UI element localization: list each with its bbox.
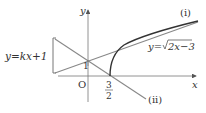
label-layer: y x O 1 3 2 y=kx+1 (i) (ii) y= 2x−3 <box>0 0 206 113</box>
origin-label: O <box>78 79 86 90</box>
x-point-numerator: 3 <box>106 80 112 90</box>
line-family-label: y=kx+1 <box>4 50 48 62</box>
y-axis-label: y <box>79 5 86 16</box>
line-i-label: (i) <box>180 7 191 18</box>
y-intercept-label: 1 <box>83 61 89 71</box>
curve-label-prefix: y= <box>147 41 162 52</box>
x-axis-label: x <box>192 79 198 90</box>
curve-label-radicand: 2x−3 <box>167 41 195 52</box>
x-point-denominator: 2 <box>106 91 112 101</box>
line-ii-label: (ii) <box>148 94 162 105</box>
